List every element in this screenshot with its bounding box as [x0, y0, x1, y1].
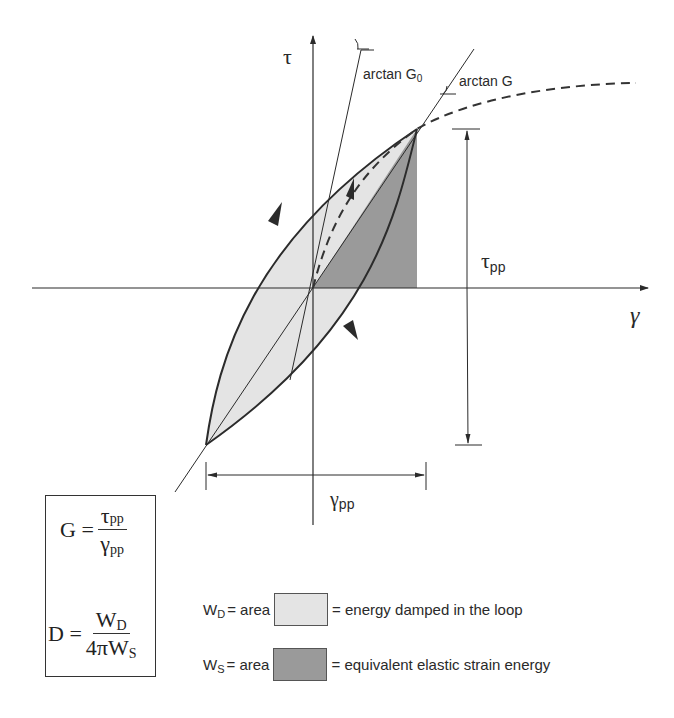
- angle-arc-g0: [355, 39, 369, 49]
- hysteresis-diagram: τ γ arctan G0 arctan G τpp γpp G = τpp γ…: [0, 0, 674, 718]
- secant-modulus-line: [175, 49, 474, 492]
- arctan-g-label: arctan G: [459, 73, 513, 89]
- legend-swatch-dark: [273, 648, 327, 681]
- gamma-pp-label: γpp: [330, 488, 354, 511]
- arrow-loading: [268, 202, 282, 226]
- arrow-unloading: [343, 320, 358, 340]
- gamma-axis-label: γ: [630, 302, 639, 329]
- formula-d: D = WD 4πWS: [48, 608, 136, 659]
- legend-row-wd: WD = area = energy damped in the loop: [203, 593, 523, 626]
- legend-symbol-ws: WS: [203, 656, 225, 673]
- formula-g: G = τpp γpp: [60, 504, 127, 555]
- legend-row-ws: WS = area = equivalent elastic strain en…: [203, 648, 550, 681]
- tau-pp-label: τpp: [481, 248, 505, 274]
- legend-swatch-light: [274, 593, 328, 626]
- arctan-g0-label: arctan G0: [363, 66, 422, 82]
- formula-box: G = τpp γpp D = WD 4πWS: [45, 495, 156, 677]
- legend-symbol-wd: WD: [203, 601, 225, 618]
- tau-axis-label: τ: [283, 44, 292, 70]
